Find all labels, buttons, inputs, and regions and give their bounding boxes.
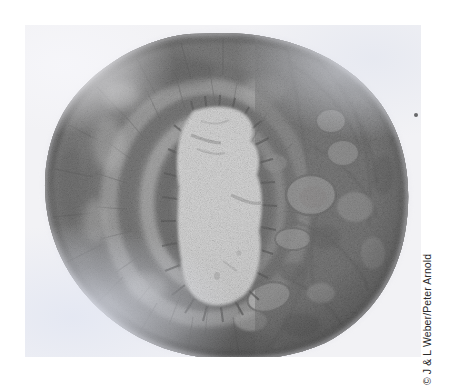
micrograph-image: [25, 25, 421, 357]
specimen-body: [25, 25, 421, 357]
photo-panel: [25, 25, 421, 357]
dust-speck: [414, 113, 418, 117]
image-credit-text: © J & L Weber/Peter Arnold: [418, 215, 436, 385]
image-credit: © J & L Weber/Peter Arnold: [418, 45, 436, 215]
figure-root: © J & L Weber/Peter Arnold: [0, 0, 452, 385]
